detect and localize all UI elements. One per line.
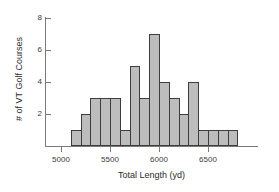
y-tick-2 bbox=[46, 114, 51, 115]
y-tick-label-2: 2 bbox=[22, 110, 42, 118]
histogram-figure: 2468 5000550060006500 Total Length (yd) … bbox=[0, 0, 279, 192]
x-tick-label-5500: 5500 bbox=[90, 155, 130, 164]
x-axis-title: Total Length (yd) bbox=[45, 170, 258, 180]
x-tick-6500 bbox=[208, 147, 209, 152]
histogram-bar bbox=[228, 130, 239, 146]
x-tick-5000 bbox=[61, 147, 62, 152]
y-tick-label-4: 4 bbox=[22, 78, 42, 86]
y-tick-4 bbox=[46, 82, 51, 83]
x-axis-line bbox=[45, 146, 258, 147]
x-tick-6000 bbox=[159, 147, 160, 152]
x-tick-label-6500: 6500 bbox=[188, 155, 228, 164]
x-tick-5500 bbox=[110, 147, 111, 152]
y-tick-label-6: 6 bbox=[22, 46, 42, 54]
x-tick-label-6000: 6000 bbox=[139, 155, 179, 164]
y-tick-8 bbox=[46, 18, 51, 19]
y-tick-6 bbox=[46, 50, 51, 51]
x-tick-label-5000: 5000 bbox=[41, 155, 81, 164]
y-axis-title: # of VT Golf Courses bbox=[14, 19, 24, 139]
plot-area: 2468 5000550060006500 Total Length (yd) … bbox=[0, 0, 279, 192]
y-tick-label-8: 8 bbox=[22, 14, 42, 22]
